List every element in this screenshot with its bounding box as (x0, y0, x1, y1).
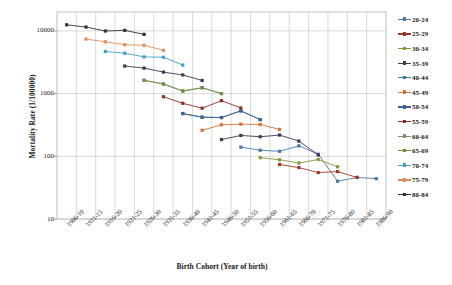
data-point-marker (239, 106, 242, 109)
y-tick-label: 100 (14, 153, 54, 160)
data-point-marker (162, 82, 165, 85)
data-point-marker (181, 102, 184, 105)
x-axis-title: Birth Cohort (Year of birth) (57, 262, 387, 271)
chart-legend: 20-2425-2930-3435-3940-4445-4950-5455-59… (398, 12, 452, 202)
data-point-marker (123, 52, 126, 55)
y-tick-label: 1000 (14, 90, 54, 97)
legend-swatch-icon (398, 44, 411, 53)
data-point-marker (220, 99, 223, 102)
legend-item-65-69[interactable]: 65-69 (398, 143, 452, 158)
data-point-marker (104, 40, 107, 43)
legend-swatch-icon (398, 175, 411, 184)
legend-item-20-24[interactable]: 20-24 (398, 12, 452, 27)
legend-swatch-icon (398, 73, 411, 82)
plot-canvas (0, 0, 452, 285)
legend-swatch-icon (398, 146, 411, 155)
data-point-marker (259, 135, 262, 138)
data-point-marker (84, 25, 87, 28)
data-point-marker (104, 29, 107, 32)
data-point-marker (259, 118, 262, 121)
data-point-marker (220, 123, 223, 126)
legend-swatch-icon (398, 59, 411, 68)
legend-label: 65-69 (411, 146, 428, 155)
data-point-marker (123, 43, 126, 46)
legend-swatch-icon (398, 161, 411, 170)
data-point-marker (220, 92, 223, 95)
legend-label: 55-59 (411, 117, 428, 126)
legend-item-60-64[interactable]: 60-64 (398, 129, 452, 144)
data-point-marker (375, 177, 378, 180)
legend-label: 25-29 (411, 29, 428, 38)
data-point-marker (123, 64, 126, 67)
legend-item-80-84[interactable]: 80-84 (398, 187, 452, 202)
data-point-marker (201, 116, 204, 119)
legend-swatch-icon (398, 117, 411, 126)
data-point-marker (181, 63, 184, 66)
data-point-marker (162, 95, 165, 98)
data-point-marker (65, 23, 68, 26)
legend-label: 60-64 (411, 132, 428, 141)
data-point-marker (239, 134, 242, 137)
mortality-rate-line-chart: Mortality Rate (1/100000) 10100100010000… (0, 0, 452, 285)
data-point-marker (297, 139, 300, 142)
data-point-marker (201, 79, 204, 82)
data-point-marker (239, 146, 242, 149)
data-point-marker (162, 49, 165, 52)
data-point-marker (201, 107, 204, 110)
legend-label: 70-74 (411, 161, 428, 170)
data-point-marker (162, 71, 165, 74)
data-point-marker (336, 170, 339, 173)
data-point-marker (220, 116, 223, 119)
data-point-marker (239, 109, 242, 112)
data-point-marker (84, 37, 87, 40)
legend-item-35-39[interactable]: 35-39 (398, 56, 452, 71)
data-point-marker (278, 128, 281, 131)
legend-label: 20-24 (411, 15, 428, 24)
data-point-marker (297, 166, 300, 169)
legend-label: 40-44 (411, 73, 428, 82)
legend-item-45-49[interactable]: 45-49 (398, 85, 452, 100)
legend-swatch-icon (398, 29, 411, 38)
data-point-marker (317, 153, 320, 156)
data-point-marker (181, 112, 184, 115)
data-point-marker (355, 176, 358, 179)
legend-label: 80-84 (411, 190, 428, 199)
data-point-marker (317, 171, 320, 174)
data-point-marker (336, 180, 339, 183)
legend-item-30-34[interactable]: 30-34 (398, 41, 452, 56)
data-point-marker (123, 29, 126, 32)
legend-swatch-icon (398, 102, 411, 111)
legend-item-25-29[interactable]: 25-29 (398, 27, 452, 42)
legend-item-50-54[interactable]: 50-54 (398, 100, 452, 115)
legend-item-70-74[interactable]: 70-74 (398, 158, 452, 173)
legend-swatch-icon (398, 88, 411, 97)
data-point-marker (142, 79, 145, 82)
data-point-marker (278, 158, 281, 161)
data-point-marker (142, 66, 145, 69)
legend-label: 50-54 (411, 102, 428, 111)
legend-label: 30-34 (411, 44, 428, 53)
data-point-marker (317, 158, 320, 161)
data-point-marker (220, 138, 223, 141)
data-point-marker (278, 133, 281, 136)
y-tick-label: 10 (14, 216, 54, 223)
data-point-marker (297, 161, 300, 164)
data-point-marker (142, 44, 145, 47)
data-point-marker (259, 123, 262, 126)
legend-item-75-79[interactable]: 75-79 (398, 173, 452, 188)
data-point-marker (181, 89, 184, 92)
legend-label: 75-79 (411, 175, 428, 184)
data-point-marker (297, 144, 300, 147)
data-point-marker (142, 33, 145, 36)
legend-swatch-icon (398, 132, 411, 141)
data-point-marker (278, 150, 281, 153)
data-point-marker (278, 163, 281, 166)
legend-item-40-44[interactable]: 40-44 (398, 70, 452, 85)
data-point-marker (181, 73, 184, 76)
y-axis-tick-labels: 10100100010000 (8, 0, 54, 230)
data-point-marker (336, 165, 339, 168)
data-point-marker (201, 129, 204, 132)
legend-item-55-59[interactable]: 55-59 (398, 114, 452, 129)
legend-label: 35-39 (411, 59, 428, 68)
data-point-marker (201, 86, 204, 89)
